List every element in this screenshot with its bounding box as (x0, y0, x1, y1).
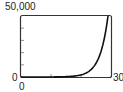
plot-frame (21, 16, 112, 78)
data-curve (21, 16, 108, 77)
plot-area (0, 0, 123, 92)
axis-ticks (21, 28, 81, 77)
